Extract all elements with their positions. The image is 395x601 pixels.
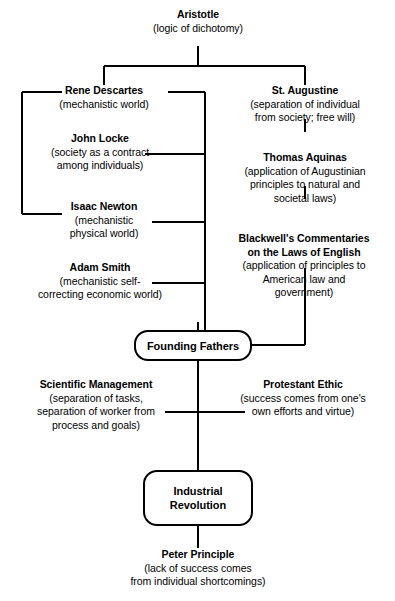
node-rene-descartes: Rene Descartes (mechanistic world)	[34, 84, 174, 111]
node-scientific-management-desc-line1: (separation of tasks,	[6, 392, 186, 406]
node-aristotle-desc: (logic of dichotomy)	[128, 22, 268, 36]
node-st-augustine-desc-line2: from society; free will)	[222, 111, 388, 125]
node-scientific-management: Scientific Management (separation of tas…	[6, 378, 186, 432]
node-blackwells-commentaries-desc-line2: American law and	[214, 273, 394, 287]
node-industrial-revolution-box[interactable]: Industrial Revolution	[143, 470, 253, 526]
node-protestant-ethic-desc-line2: own efforts and virtue)	[212, 405, 394, 419]
node-adam-smith-title: Adam Smith	[20, 261, 180, 275]
node-protestant-ethic-title: Protestant Ethic	[212, 378, 394, 392]
node-john-locke-desc-line2: among individuals)	[24, 159, 176, 173]
node-blackwells-commentaries-desc-line3: government)	[214, 286, 394, 300]
node-peter-principle-title: Peter Principle	[100, 548, 296, 562]
node-isaac-newton-desc-line1: (mechanistic	[34, 214, 174, 228]
node-founding-fathers-label: Founding Fathers	[147, 339, 239, 353]
node-thomas-aquinas-title: Thomas Aquinas	[216, 151, 394, 165]
node-adam-smith-desc-line1: (mechanistic self-	[20, 275, 180, 289]
node-scientific-management-desc-line2: separation of worker from	[6, 405, 186, 419]
node-isaac-newton-desc-line2: physical world)	[34, 227, 174, 241]
node-john-locke: John Locke (society as a contract among …	[24, 132, 176, 173]
node-protestant-ethic: Protestant Ethic (success comes from one…	[212, 378, 394, 419]
node-isaac-newton: Isaac Newton (mechanistic physical world…	[34, 200, 174, 241]
node-scientific-management-title: Scientific Management	[6, 378, 186, 392]
node-industrial-revolution-label-line1: Industrial	[173, 484, 222, 498]
node-founding-fathers-box[interactable]: Founding Fathers	[134, 330, 252, 361]
node-thomas-aquinas-desc-line1: (application of Augustinian	[216, 165, 394, 179]
node-protestant-ethic-desc-line1: (success comes from one's	[212, 392, 394, 406]
node-peter-principle: Peter Principle (lack of success comes f…	[100, 548, 296, 589]
node-aristotle-title: Aristotle	[128, 8, 268, 22]
node-st-augustine-title: St. Augustine	[222, 84, 388, 98]
node-blackwells-commentaries: Blackwell's Commentaries on the Laws of …	[214, 232, 394, 300]
node-thomas-aquinas: Thomas Aquinas (application of Augustini…	[216, 151, 394, 205]
node-blackwells-commentaries-title-line1: Blackwell's Commentaries	[214, 232, 394, 246]
node-blackwells-commentaries-title-line2: on the Laws of English	[214, 246, 394, 260]
node-adam-smith-desc-line2: correcting economic world)	[20, 288, 180, 302]
node-rene-descartes-desc: (mechanistic world)	[34, 98, 174, 112]
node-peter-principle-desc-line1: (lack of success comes	[100, 562, 296, 576]
node-peter-principle-desc-line2: from individual shortcomings)	[100, 575, 296, 589]
node-thomas-aquinas-desc-line3: societal laws)	[216, 192, 394, 206]
node-blackwells-commentaries-desc-line1: (application of principles to	[214, 259, 394, 273]
node-st-augustine: St. Augustine (separation of individual …	[222, 84, 388, 125]
node-john-locke-title: John Locke	[24, 132, 176, 146]
node-rene-descartes-title: Rene Descartes	[34, 84, 174, 98]
node-st-augustine-desc-line1: (separation of individual	[222, 98, 388, 112]
node-thomas-aquinas-desc-line2: principles to natural and	[216, 178, 394, 192]
node-adam-smith: Adam Smith (mechanistic self- correcting…	[20, 261, 180, 302]
flowchart-canvas: Aristotle (logic of dichotomy) Rene Desc…	[0, 0, 395, 601]
node-isaac-newton-title: Isaac Newton	[34, 200, 174, 214]
node-aristotle: Aristotle (logic of dichotomy)	[128, 8, 268, 35]
node-scientific-management-desc-line3: process and goals)	[6, 419, 186, 433]
node-john-locke-desc-line1: (society as a contract	[24, 146, 176, 160]
node-industrial-revolution-label-line2: Revolution	[170, 498, 226, 512]
